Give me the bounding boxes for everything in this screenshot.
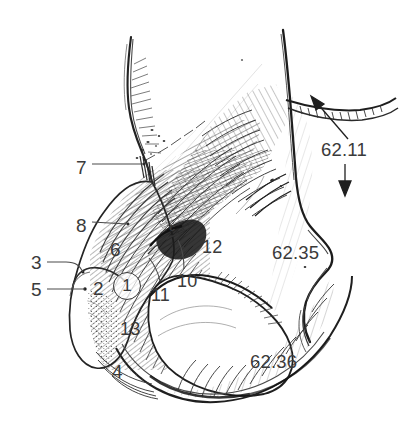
label-1-text: 1 [122,276,131,296]
label-1-circled: 1 [113,272,141,300]
arrow-62-11-upper [311,96,348,139]
label-7: 7 [76,158,87,177]
drawing-strokes [47,30,398,410]
marker-c: c [169,222,175,233]
label-13: 13 [120,320,140,338]
label-8: 8 [76,216,87,235]
label-62-35: 62.35 [272,244,319,263]
label-62-11: 62.11 [321,141,367,160]
label-10: 10 [177,272,197,290]
arrow-62-11-lower [339,164,351,196]
label-11: 11 [151,286,170,304]
anatomical-figure: 7 8 6 3 5 2 1 11 10 12 13 4 62.11 62.35 … [0,0,418,423]
label-6: 6 [110,240,121,259]
label-12: 12 [202,238,222,256]
illustration-canvas [0,0,418,423]
label-62-36: 62.36 [250,353,297,372]
label-2: 2 [93,279,104,298]
label-3: 3 [31,253,42,272]
label-5: 5 [31,280,42,299]
label-4: 4 [112,362,123,381]
